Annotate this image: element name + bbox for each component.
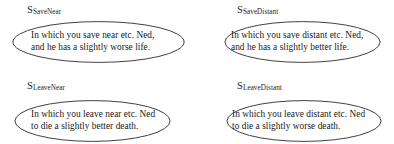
scenario-label-save-near: SSaveNear [27, 4, 61, 18]
scenario-text-leave-distant: In which you leave distant etc. Ned to d… [232, 108, 365, 132]
scenario-text-line: to die a slightly worse death. [232, 120, 365, 132]
scenario-label-subscript: SaveDistant [243, 8, 278, 16]
scenario-text-line: and he has a slightly worse life. [31, 41, 154, 53]
scenario-diagram: SSaveNear In which you save near etc. Ne… [0, 0, 394, 144]
scenario-text-save-near: In which you save near etc. Ned, and he … [31, 29, 154, 53]
scenario-text-line: and he has a slightly better life. [231, 41, 363, 53]
scenario-text-save-distant: In which you save distant etc. Ned, and … [231, 29, 363, 53]
scenario-text-line: In which you save distant etc. Ned, [231, 29, 363, 41]
scenario-text-leave-near: In which you leave near etc. Ned to die … [31, 108, 155, 132]
scenario-ellipse-save-distant: In which you save distant etc. Ned, and … [224, 21, 381, 63]
scenario-label-leave-distant: SLeaveDistant [237, 80, 282, 94]
scenario-ellipse-leave-distant: In which you leave distant etc. Ned to d… [226, 100, 382, 142]
scenario-text-line: In which you save near etc. Ned, [31, 29, 154, 41]
scenario-label-subscript: SaveNear [33, 8, 61, 16]
scenario-text-line: In which you leave near etc. Ned [31, 108, 155, 120]
scenario-label-leave-near: SLeaveNear [27, 80, 65, 94]
scenario-label-subscript: LeaveDistant [243, 84, 282, 92]
scenario-label-subscript: LeaveNear [33, 84, 65, 92]
scenario-label-save-distant: SSaveDistant [237, 4, 278, 18]
scenario-text-line: to die a slightly better death. [31, 120, 155, 132]
scenario-ellipse-save-near: In which you save near etc. Ned, and he … [12, 21, 185, 63]
scenario-text-line: In which you leave distant etc. Ned [232, 108, 365, 120]
scenario-ellipse-leave-near: In which you leave near etc. Ned to die … [14, 100, 171, 142]
